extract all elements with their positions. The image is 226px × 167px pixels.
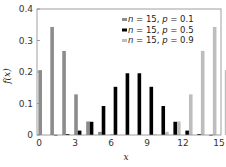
- y-axis-label: f(x): [2, 68, 12, 85]
- bar: [165, 132, 169, 135]
- bar: [225, 70, 226, 135]
- bar: [50, 27, 54, 135]
- bar: [138, 73, 142, 135]
- bar: [201, 51, 205, 135]
- x-tick-label: 0: [36, 138, 42, 148]
- legend-entry-label: n = 15, p = 0.5: [128, 25, 194, 35]
- legend: n = 15, p = 0.1n = 15, p = 0.5n = 15, p …: [122, 14, 194, 45]
- x-tick-label: 9: [144, 138, 150, 148]
- legend-swatch: [122, 18, 127, 21]
- bar: [86, 121, 90, 135]
- bar: [173, 122, 177, 135]
- bar: [185, 131, 189, 135]
- bar: [102, 106, 106, 135]
- bar: [177, 121, 181, 135]
- bar: [114, 87, 118, 135]
- bar: [62, 51, 66, 135]
- y-tick-label: 0.3: [19, 36, 33, 46]
- y-tick-label: 0: [27, 130, 33, 140]
- bar: [74, 94, 78, 135]
- bar: [150, 87, 154, 135]
- y-tick-label: 0.1: [19, 99, 33, 109]
- bar: [90, 122, 94, 135]
- legend-swatch: [122, 39, 127, 42]
- y-tick-label: 0.4: [19, 4, 34, 14]
- bar: [213, 27, 217, 135]
- bar: [126, 73, 130, 135]
- legend-entry-label: n = 15, p = 0.9: [128, 35, 194, 45]
- bar: [38, 70, 42, 135]
- legend-entry-label: n = 15, p = 0.1: [128, 14, 194, 24]
- bar: [78, 131, 82, 135]
- bar: [161, 106, 165, 135]
- legend-swatch: [122, 29, 127, 32]
- x-tick-label: 3: [72, 138, 78, 148]
- x-tick-label: 12: [177, 138, 188, 148]
- x-axis-label: x: [123, 152, 128, 162]
- y-tick-label: 0.2: [19, 67, 33, 77]
- bar: [189, 94, 193, 135]
- x-tick-label: 15: [213, 138, 224, 148]
- x-tick-label: 6: [108, 138, 114, 148]
- binomial-bar-chart: 00.10.20.30.403691215xf(x) n = 15, p = 0…: [0, 0, 226, 167]
- bar: [98, 132, 102, 135]
